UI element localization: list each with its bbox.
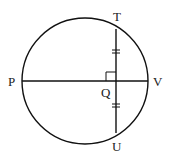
label-q: Q [101,85,111,100]
right-angle-marker [106,72,116,81]
circle-diagram: P V T U Q [0,0,175,159]
label-u: U [112,139,122,154]
label-p: P [8,74,15,89]
label-t: T [113,9,121,24]
label-v: V [153,74,163,89]
